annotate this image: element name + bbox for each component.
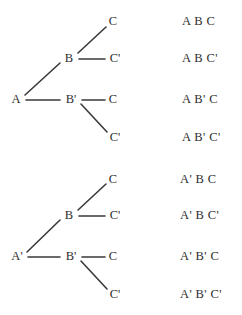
path-label: A B' C' bbox=[182, 131, 221, 144]
tree-node-b: B bbox=[65, 209, 73, 222]
tree-node-c: C bbox=[109, 250, 117, 263]
tree-node-b: B bbox=[65, 52, 73, 65]
tree-node-c-prime: C' bbox=[110, 288, 121, 301]
path-label: A B C bbox=[182, 15, 215, 28]
tree-edge bbox=[81, 104, 107, 132]
path-label: A' B' C bbox=[180, 250, 219, 263]
tree-node-c: C bbox=[109, 173, 117, 186]
path-label: A' B C bbox=[180, 173, 217, 186]
tree-node-c: C bbox=[109, 93, 117, 106]
path-label: A B C' bbox=[182, 52, 218, 65]
tree-edge bbox=[81, 261, 107, 289]
tree-node-c-prime: C' bbox=[110, 209, 121, 222]
decision-tree-figure: ABB'CC'CC'A'BB'CC'CC' A B CA B C'A B' CA… bbox=[0, 0, 242, 315]
tree-node-a: A bbox=[11, 93, 20, 106]
tree-node-c-prime: C' bbox=[110, 131, 121, 144]
tree-node-a-prime: A' bbox=[11, 250, 22, 263]
tree-node-c-prime: C' bbox=[110, 52, 121, 65]
tree-edges bbox=[0, 0, 242, 315]
path-label: A B' C bbox=[182, 93, 218, 106]
tree-node-c: C bbox=[109, 15, 117, 28]
tree-node-b-prime: B' bbox=[66, 250, 77, 263]
tree-edge bbox=[78, 27, 106, 53]
tree-edge bbox=[78, 184, 106, 210]
tree-edge bbox=[25, 63, 60, 95]
tree-node-b-prime: B' bbox=[66, 93, 77, 106]
path-label: A' B C' bbox=[180, 209, 219, 222]
tree-edge bbox=[27, 220, 60, 252]
path-label: A' B' C' bbox=[180, 288, 222, 301]
